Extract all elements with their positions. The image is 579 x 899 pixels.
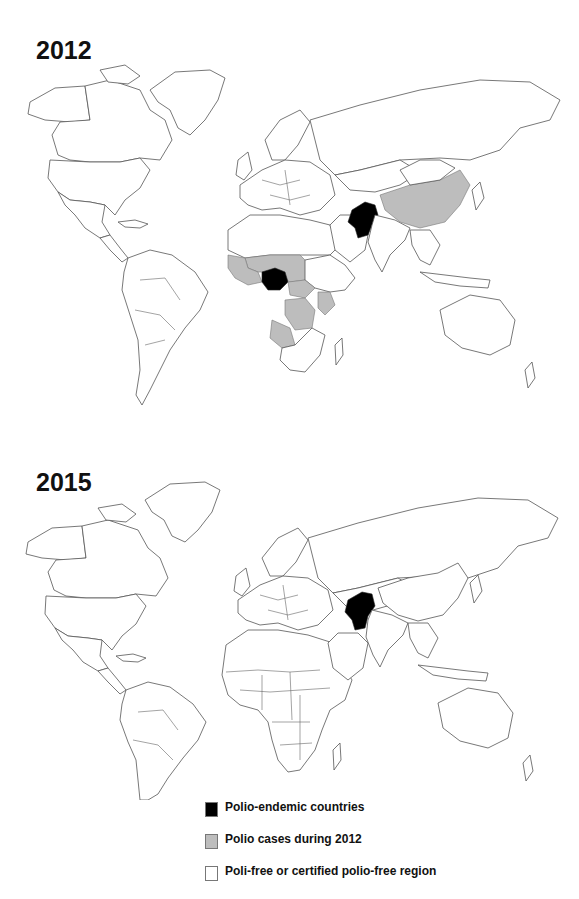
australia <box>440 295 515 355</box>
indonesia <box>418 665 488 681</box>
legend-label-polio-free: Poli-free or certified polio-free region <box>225 864 436 878</box>
india <box>368 215 410 272</box>
north-africa <box>228 215 340 258</box>
central-america <box>98 668 126 694</box>
year-title-2015: 2015 <box>36 468 92 497</box>
south-america <box>122 250 208 405</box>
uk <box>234 568 250 596</box>
uk <box>236 152 252 180</box>
india <box>366 610 408 667</box>
madagascar <box>333 743 341 770</box>
caribbean <box>118 220 148 228</box>
australia <box>438 688 513 748</box>
japan <box>470 575 482 603</box>
new-zealand <box>523 755 533 781</box>
map-panel-2015: 2015 <box>0 460 579 800</box>
legend-item-polio-free: Poli-free or certified polio-free region <box>205 864 505 896</box>
cases-swatch <box>205 834 218 849</box>
year-title-2012: 2012 <box>36 36 92 65</box>
caribbean <box>116 654 146 662</box>
new-zealand <box>525 362 535 388</box>
scandinavia <box>265 110 310 160</box>
legend-item-cases: Polio cases during 2012 <box>205 832 505 864</box>
polio-free-swatch <box>205 866 218 881</box>
indonesia <box>420 272 490 288</box>
kenya-cases <box>318 292 335 315</box>
legend-label-cases: Polio cases during 2012 <box>225 832 362 846</box>
endemic-swatch <box>205 802 218 817</box>
scandinavia <box>262 528 308 576</box>
greenland <box>145 482 220 542</box>
map-legend: Polio-endemic countries Polio cases duri… <box>205 800 505 896</box>
alaska <box>26 526 86 560</box>
alaska <box>28 86 90 122</box>
legend-item-endemic: Polio-endemic countries <box>205 800 505 832</box>
southeast-asia <box>408 623 438 658</box>
southeast-asia <box>410 230 440 265</box>
world-map-2015 <box>0 460 579 800</box>
madagascar <box>335 338 343 365</box>
legend-label-endemic: Polio-endemic countries <box>225 800 364 814</box>
japan <box>472 182 484 210</box>
canada-islands <box>98 504 136 522</box>
map-panel-2012: 2012 <box>0 0 579 440</box>
drc-cases <box>285 298 315 330</box>
south-america <box>120 682 206 800</box>
central-america <box>100 235 128 262</box>
world-map-2012 <box>0 10 579 440</box>
